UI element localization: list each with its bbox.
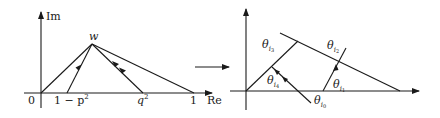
left-panel: Im w 0 1 − p2 q2 1 Re: [24, 10, 222, 108]
theta-i4-label: θi4: [267, 74, 279, 89]
tick-zero: 0: [28, 94, 35, 107]
right-panel: θi3 θi2 θi4 θi1 θi0: [230, 9, 419, 110]
segment-origin-to-w: [41, 44, 92, 93]
segment-w-to-one: [92, 44, 194, 93]
segment-q-to-w: [92, 44, 143, 93]
tick-q2: q2: [137, 93, 149, 107]
im-label: Im: [46, 10, 61, 23]
w-label: w: [89, 30, 99, 43]
tick-one: 1: [190, 94, 197, 107]
tick-one-minus-p2: 1 − p2: [54, 93, 89, 107]
arrow-icon: [333, 64, 339, 71]
theta-i2-label: θi2: [327, 39, 339, 54]
theta-i0-label: θi0: [314, 94, 326, 109]
diagram-canvas: Im w 0 1 − p2 q2 1 Re θi3 θi2 θi4 θi1 θi…: [0, 0, 440, 118]
theta-i1-label: θi1: [333, 78, 345, 93]
re-label: Re: [207, 94, 222, 107]
theta-i3-label: θi3: [262, 38, 274, 53]
